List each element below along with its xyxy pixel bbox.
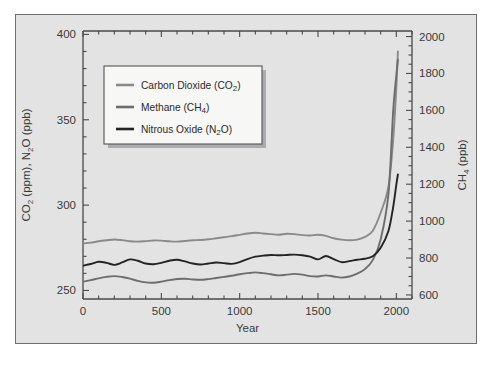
y-right-tick-label: 800 [419,252,438,264]
y-right-tick-label: 1800 [419,67,445,79]
y-right-tick-label: 1200 [419,178,445,190]
y-left-tick-label: 250 [57,284,76,296]
y-right-tick-label: 1000 [419,215,445,227]
y-right-tick-label: 1400 [419,141,445,153]
y-left-tick-label: 400 [57,28,76,40]
y-left-tick-label: 300 [57,199,76,211]
y-right-tick-label: 1600 [419,104,445,116]
y-right-tick-label: 600 [419,289,438,301]
x-axis-title: Year [236,322,259,334]
x-tick-label: 1500 [305,305,331,317]
x-tick-label: 2000 [384,305,410,317]
y-axis-left-title: CO2 (ppm), N2O (ppb) [20,108,35,221]
x-tick-label: 1000 [227,305,253,317]
y-right-tick-label: 2000 [419,31,445,43]
figure-root: 0500100015002000Year250300350400CO2 (ppm… [0,0,498,365]
y-axis-right-title: CH4 (ppb) [456,139,471,190]
greenhouse-gas-chart: 0500100015002000Year250300350400CO2 (ppm… [0,0,498,365]
x-tick-label: 500 [152,305,171,317]
x-tick-label: 0 [80,305,86,317]
legend: Carbon Dioxide (CO2)Methane (CH4)Nitrous… [104,66,266,148]
y-left-tick-label: 350 [57,114,76,126]
